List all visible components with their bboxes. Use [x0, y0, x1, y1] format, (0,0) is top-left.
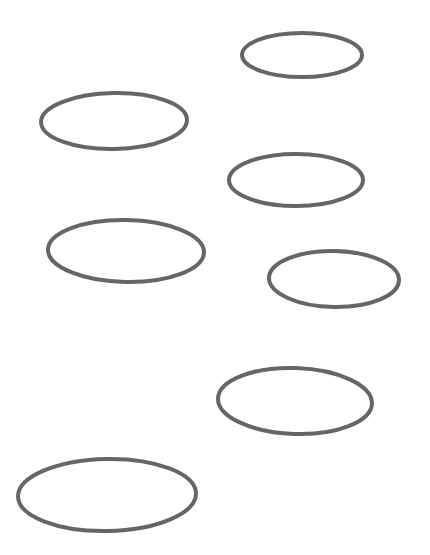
drawing-canvas — [0, 0, 430, 555]
ellipse-shape — [47, 219, 204, 284]
ellipse-shape — [217, 365, 373, 436]
ellipse-drawing — [0, 0, 430, 555]
ellipse-shape — [41, 92, 188, 151]
ellipse-shape — [242, 33, 362, 77]
ellipse-shape — [17, 457, 196, 532]
ellipse-shape — [229, 154, 363, 206]
ellipse-group — [17, 33, 399, 533]
ellipse-shape — [269, 250, 400, 308]
